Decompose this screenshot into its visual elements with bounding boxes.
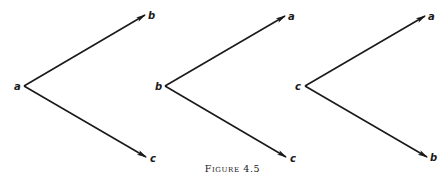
figure-canvas: a b c b a c c a b bbox=[0, 0, 447, 184]
diagram-3: c a b bbox=[295, 11, 437, 163]
upper-label: a bbox=[288, 11, 295, 22]
arrow-a-to-c bbox=[24, 86, 146, 157]
diagram-1: a b c bbox=[14, 10, 156, 164]
lower-label: b bbox=[430, 152, 437, 163]
arrow-b-to-a bbox=[165, 16, 285, 86]
figure-caption: Figure 4.5 bbox=[0, 163, 447, 174]
vertex-label: a bbox=[14, 81, 21, 92]
vertex-label: b bbox=[155, 81, 162, 92]
arrow-c-to-a bbox=[305, 16, 425, 86]
arrow-b-to-c bbox=[165, 86, 286, 157]
upper-label: b bbox=[148, 10, 155, 21]
upper-label: a bbox=[428, 11, 435, 22]
vertex-label: c bbox=[295, 81, 301, 92]
diagram-2: b a c bbox=[155, 11, 296, 164]
arrow-c-to-b bbox=[305, 86, 427, 157]
arrow-a-to-b bbox=[24, 15, 145, 86]
